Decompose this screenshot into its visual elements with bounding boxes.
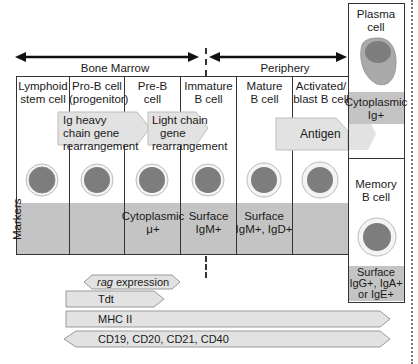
tdt-bar [66, 291, 164, 307]
rag-expression-label: rag expression [97, 276, 169, 288]
expression-bars [0, 0, 418, 364]
cd-markers-label: CD19, CD20, CD21, CD40 [98, 333, 229, 345]
mhc2-label: MHC II [98, 313, 132, 325]
tdt-label: Tdt [98, 293, 114, 305]
